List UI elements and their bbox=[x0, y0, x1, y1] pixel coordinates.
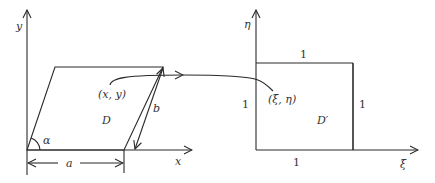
b-label: b bbox=[153, 102, 160, 115]
mapping-curve-continuation bbox=[183, 75, 273, 91]
right-side-length-label: 1 bbox=[359, 98, 366, 111]
xi-axis-label: ξ bbox=[400, 158, 407, 171]
region-d-label: D bbox=[101, 114, 111, 127]
right-diagram: η ξ D′ (ξ, η) 1 1 1 1 bbox=[242, 10, 418, 171]
y-axis-label: y bbox=[15, 20, 23, 33]
bottom-side-length-label: 1 bbox=[293, 156, 300, 169]
x-axis-label: x bbox=[175, 155, 182, 168]
mapping-diagram: y x D (x, y) α a b η ξ D′ (ξ, η) 1 1 1 1 bbox=[0, 0, 435, 183]
region-d-prime-label: D′ bbox=[316, 114, 329, 127]
point-xi-eta-label: (ξ, η) bbox=[268, 93, 296, 106]
angle-alpha-arc bbox=[31, 138, 40, 150]
a-label: a bbox=[66, 157, 73, 170]
eta-axis-label: η bbox=[244, 18, 251, 31]
mapping-curve-to-arrowhead bbox=[110, 75, 183, 85]
point-xy-label: (x, y) bbox=[98, 88, 126, 101]
angle-alpha-label: α bbox=[43, 134, 51, 147]
left-side-length-label: 1 bbox=[242, 98, 249, 111]
left-diagram: y x D (x, y) α a b bbox=[15, 10, 192, 175]
mapping-arrow bbox=[110, 75, 273, 91]
top-side-length-label: 1 bbox=[300, 48, 307, 61]
